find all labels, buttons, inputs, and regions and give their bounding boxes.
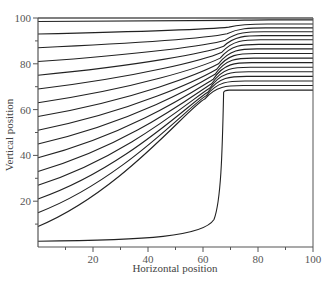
x-tick-label: 80 [253, 253, 265, 265]
y-tick-label: 20 [20, 195, 32, 207]
x-axis-label: Horizontal position [132, 262, 218, 274]
y-tick-label: 80 [20, 58, 32, 70]
streamline [38, 86, 313, 227]
streamline [38, 81, 313, 213]
streamline [38, 24, 313, 34]
y-tick-label: 100 [15, 12, 32, 24]
x-tick-label: 100 [305, 253, 322, 265]
streamline [38, 49, 313, 117]
y-tick-label: 40 [20, 149, 32, 161]
streamline [38, 36, 313, 76]
streamline [38, 67, 313, 171]
streamline [38, 76, 313, 199]
streamlines [38, 20, 313, 241]
streamline [38, 53, 313, 130]
streamline [38, 20, 313, 22]
streamline-chart: 2040608010020406080100 Horizontal positi… [0, 0, 330, 283]
y-tick-label: 60 [20, 104, 32, 116]
x-tick-label: 20 [88, 253, 100, 265]
y-axis-label: Vertical position [3, 98, 15, 171]
